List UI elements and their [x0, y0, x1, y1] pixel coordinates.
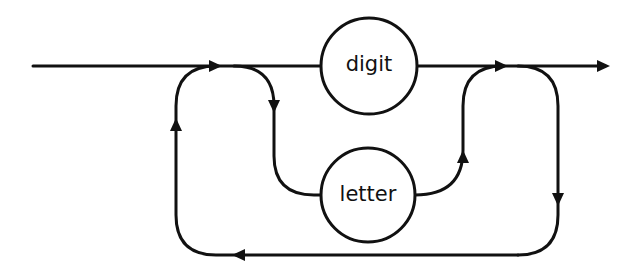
loop-top-arrow-icon — [209, 60, 222, 72]
loop-back-arrow-icon — [232, 249, 245, 261]
branch-to-letter — [234, 66, 321, 195]
letter-label: letter — [340, 182, 397, 206]
loop-down-right — [518, 66, 558, 255]
branch-down-arrow-icon — [268, 100, 280, 113]
node-letter: letter — [321, 148, 415, 242]
branch-up-arrow-icon — [457, 150, 469, 163]
merge-arrow-icon — [495, 60, 508, 72]
syntax-diagram: digit letter — [0, 0, 636, 275]
branch-from-letter — [415, 66, 503, 195]
loop-down-arrow-icon — [552, 193, 564, 206]
node-digit: digit — [321, 18, 417, 114]
loop-up-arrow-icon — [170, 118, 182, 131]
exit-arrow-icon — [597, 60, 610, 72]
digit-label: digit — [346, 52, 393, 76]
